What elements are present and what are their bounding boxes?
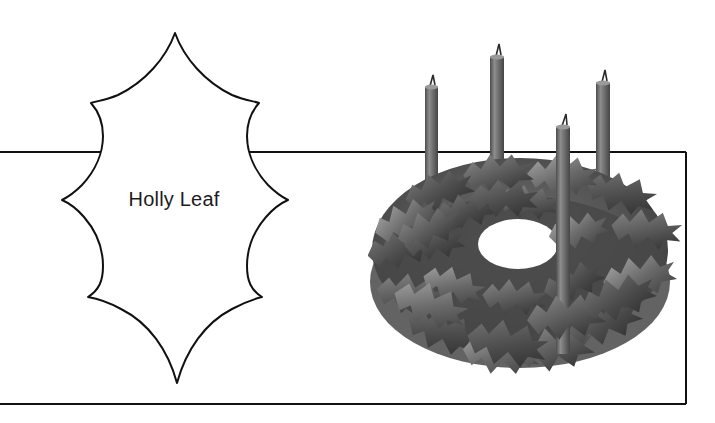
wick-icon — [602, 70, 607, 82]
candle-top — [425, 85, 438, 90]
candle-top — [490, 54, 504, 59]
wreath-photograph — [368, 34, 698, 388]
wick-icon — [430, 75, 435, 86]
pattern-sheet-page: Holly Leaf — [0, 0, 715, 423]
candle-top — [556, 124, 570, 129]
wick-icon — [496, 44, 501, 56]
wick-icon — [562, 114, 567, 126]
pattern-label: Holly Leaf — [0, 188, 348, 210]
candle-top — [596, 80, 610, 85]
